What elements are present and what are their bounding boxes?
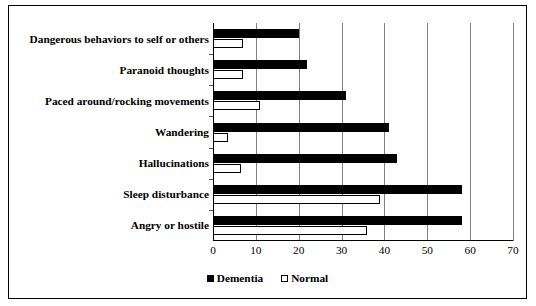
bar-dementia [213,216,462,225]
gridline-10 [256,23,257,241]
bar-normal [213,195,380,204]
x-tick-label-20: 20 [293,244,304,256]
x-tick-label-10: 10 [250,244,261,256]
x-tick-label-0: 0 [210,244,216,256]
bar-dementia [213,123,389,132]
chart-plot-wrapper: Dangerous behaviors to self or othersPar… [9,6,526,298]
legend-entry: Dementia [207,272,263,284]
category-tick [209,148,213,149]
x-tick-label-30: 30 [336,244,347,256]
category-tick [209,54,213,55]
gridlines [213,23,513,241]
bar-normal [213,101,260,110]
bar-normal [213,164,241,173]
category-label: Wandering [13,126,209,138]
bar-dementia [213,185,462,194]
x-tick-label-70: 70 [507,244,518,256]
bar-dementia [213,60,307,69]
category-tick [209,179,213,180]
gridline-70 [513,23,514,241]
plot-area [213,23,513,241]
gridline-20 [299,23,300,241]
bar-dementia [213,91,346,100]
bar-normal [213,133,228,142]
filled-square-icon [207,275,214,282]
category-tick [209,210,213,211]
category-label: Paranoid thoughts [13,64,209,76]
legend-label: Dementia [217,272,263,284]
x-tick-label-50: 50 [422,244,433,256]
bar-dementia [213,154,397,163]
legend-entry: Normal [281,272,328,284]
gridline-50 [427,23,428,241]
category-label: Dangerous behaviors to self or others [13,33,209,45]
gridline-40 [384,23,385,241]
x-axis-line [213,240,513,241]
chart-frame: Dangerous behaviors to self or othersPar… [8,5,527,299]
category-label: Angry or hostile [13,219,209,231]
chart-legend: DementiaNormal [9,272,526,284]
bar-normal [213,39,243,48]
category-tick [209,85,213,86]
legend-label: Normal [291,272,328,284]
bar-dementia [213,29,299,38]
gridline-60 [470,23,471,241]
hollow-square-icon [281,275,288,282]
category-label: Paced around/rocking movements [13,95,209,107]
bar-normal [213,70,243,79]
x-tick-label-40: 40 [379,244,390,256]
bar-normal [213,226,367,235]
category-label: Sleep disturbance [13,188,209,200]
x-tick-label-60: 60 [464,244,475,256]
gridline-30 [342,23,343,241]
category-label: Hallucinations [13,157,209,169]
category-axis-labels: Dangerous behaviors to self or othersPar… [13,23,209,241]
x-axis-tick-labels: 010203040506070 [213,244,513,260]
category-tick [209,116,213,117]
